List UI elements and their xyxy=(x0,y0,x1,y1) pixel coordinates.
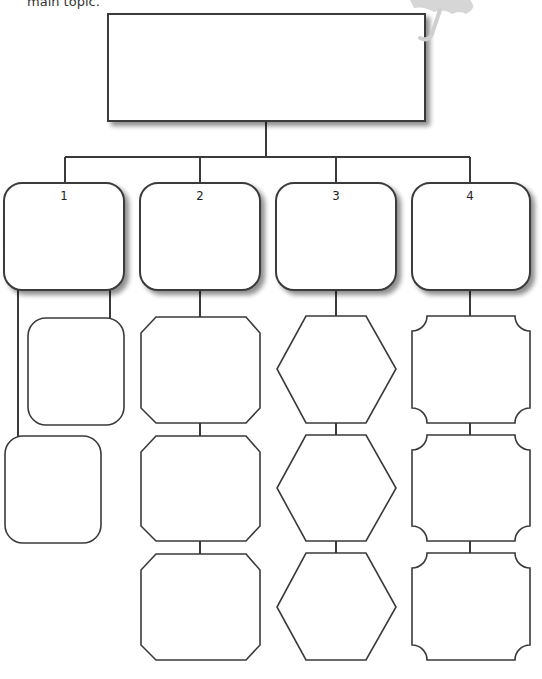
detail-box-1-2[interactable] xyxy=(5,436,101,543)
detail-box-1-1[interactable] xyxy=(28,318,124,425)
detail-box-2-2[interactable] xyxy=(141,436,260,541)
category-number-3: 3 xyxy=(332,188,339,203)
category-number-2: 2 xyxy=(196,188,203,203)
detail-box-4-3[interactable] xyxy=(412,553,530,660)
detail-box-4-2[interactable] xyxy=(412,435,530,541)
detail-box-3-3[interactable] xyxy=(277,553,396,660)
graphic-organizer: 1 2 3 4 xyxy=(0,0,542,679)
detail-box-3-1[interactable] xyxy=(277,316,396,423)
detail-box-3-2[interactable] xyxy=(277,435,396,541)
category-number-1: 1 xyxy=(60,188,67,203)
main-topic-box[interactable] xyxy=(108,14,425,121)
detail-box-2-3[interactable] xyxy=(141,554,260,660)
detail-box-2-1[interactable] xyxy=(141,317,260,423)
detail-box-4-1[interactable] xyxy=(412,316,530,423)
category-number-4: 4 xyxy=(466,188,473,203)
